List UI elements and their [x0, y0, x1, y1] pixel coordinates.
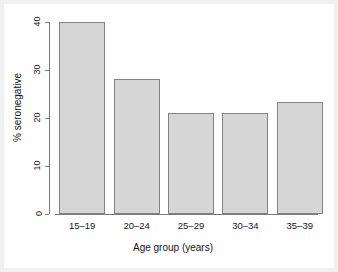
y-tick-label-text: 30 — [32, 64, 41, 74]
bar-chart-figure: 010203040 15–1920–2425–2930–3435–39 Age … — [0, 0, 338, 272]
bar — [277, 102, 323, 214]
y-tick-label-text: 40 — [32, 16, 41, 26]
x-axis-title: Age group (years) — [4, 242, 338, 253]
y-tick-label-text: 0 — [35, 211, 44, 216]
y-tick-label: 10 — [4, 161, 42, 170]
y-tick-label: 40 — [4, 17, 42, 26]
bars-layer — [49, 22, 321, 214]
y-tick-label-text: 20 — [32, 112, 41, 122]
x-tick-label: 35–39 — [273, 220, 327, 231]
x-tick-label: 20–24 — [109, 220, 163, 231]
y-axis-title: % seronegative — [12, 48, 23, 168]
x-axis-line — [55, 214, 318, 215]
y-tick-label: 20 — [4, 113, 42, 122]
y-tick-mark — [45, 214, 49, 215]
y-tick-label: 0 — [4, 209, 42, 218]
bar — [222, 113, 268, 214]
bar — [114, 79, 160, 214]
bar — [168, 113, 214, 214]
y-tick-label: 30 — [4, 65, 42, 74]
x-tick-label: 30–34 — [218, 220, 272, 231]
bar — [59, 22, 105, 214]
x-tick-label: 25–29 — [164, 220, 218, 231]
y-tick-label-text: 10 — [32, 160, 41, 170]
x-tick-label: 15–19 — [55, 220, 109, 231]
